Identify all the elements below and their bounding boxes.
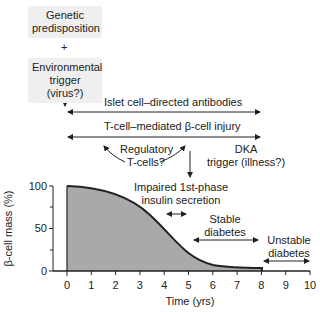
stable-diabetes-label: Stable diabetes: [200, 213, 250, 239]
dka-line2: trigger (illness?): [200, 156, 292, 169]
impaired-line2: insulin secretion: [126, 194, 236, 207]
xtick-6: 6: [207, 279, 219, 292]
stable-line2: diabetes: [200, 226, 250, 239]
regulatory-line2: T-cells?: [120, 156, 172, 169]
impaired-line1: Impaired 1st-phase: [126, 181, 236, 194]
xtick-8: 8: [255, 279, 267, 292]
environmental-line1: Environmental: [32, 61, 98, 74]
xtick-10: 10: [300, 279, 320, 292]
unstable-line1: Unstable: [264, 234, 314, 247]
unstable-line2: diabetes: [264, 247, 314, 260]
xtick-0: 0: [61, 279, 73, 292]
ytick-50: 50: [27, 222, 47, 235]
ytick-0: 0: [27, 265, 47, 278]
regulatory-line1: Regulatory: [120, 143, 172, 156]
xtick-1: 1: [85, 279, 97, 292]
y-ticks: [49, 186, 53, 271]
xtick-2: 2: [110, 279, 122, 292]
environmental-trigger-box: Environmental trigger (virus?): [28, 58, 102, 103]
environmental-line2: trigger (virus?): [32, 74, 98, 100]
xtick-5: 5: [183, 279, 195, 292]
regulatory-tcells-label: Regulatory T-cells?: [120, 143, 172, 169]
islet-antibodies-label: Islet cell–directed antibodies: [104, 96, 242, 109]
stable-line1: Stable: [200, 213, 250, 226]
plus-sign: +: [61, 41, 67, 54]
y-axis-label: β-cell mass (%): [2, 189, 15, 269]
xtick-7: 7: [231, 279, 243, 292]
genetic-predisposition-box: Genetic predisposition: [28, 6, 102, 38]
xtick-3: 3: [134, 279, 146, 292]
xtick-9: 9: [280, 279, 292, 292]
genetic-line2: predisposition: [32, 22, 98, 35]
xtick-4: 4: [158, 279, 170, 292]
impaired-secretion-label: Impaired 1st-phase insulin secretion: [126, 181, 236, 207]
unstable-diabetes-label: Unstable diabetes: [264, 234, 314, 260]
tcell-injury-label: T-cell–mediated β-cell injury: [104, 120, 241, 133]
dka-trigger-label: DKA trigger (illness?): [200, 143, 292, 169]
genetic-line1: Genetic: [32, 9, 98, 22]
x-axis-label: Time (yrs): [160, 295, 220, 308]
dka-line1: DKA: [200, 143, 292, 156]
ytick-100: 100: [27, 180, 47, 193]
